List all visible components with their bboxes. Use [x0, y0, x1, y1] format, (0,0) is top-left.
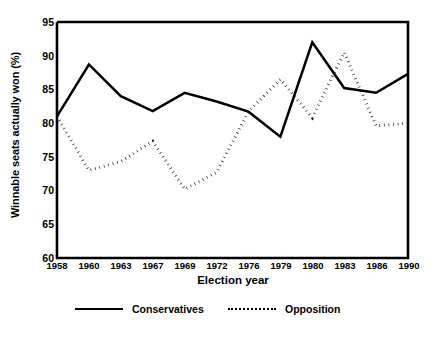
legend-swatch-dotted-line-icon — [228, 303, 276, 315]
legend-swatch-solid-line-icon — [75, 303, 123, 315]
series-line-opposition — [57, 52, 408, 189]
x-tick-label-1960: 1960 — [72, 261, 106, 271]
chart-legend: Conservatives Opposition — [0, 300, 439, 330]
x-tick-label-1986: 1986 — [360, 261, 394, 271]
x-tick-label-1976: 1976 — [232, 261, 266, 271]
x-axis-title: Election year — [57, 274, 409, 286]
plot-area — [0, 0, 439, 338]
legend-label-conservatives: Conservatives — [132, 303, 204, 315]
x-tick-label-1990: 1990 — [392, 261, 426, 271]
x-tick-label-1969: 1969 — [168, 261, 202, 271]
series-line-conservatives — [57, 42, 408, 136]
x-tick-label-1980: 1980 — [296, 261, 330, 271]
legend-item-conservatives: Conservatives — [75, 300, 204, 318]
x-tick-label-1979: 1979 — [264, 261, 298, 271]
legend-item-opposition: Opposition — [228, 300, 340, 318]
axis-frame — [57, 22, 408, 258]
legend-label-opposition: Opposition — [285, 303, 340, 315]
x-tick-label-1958: 1958 — [40, 261, 74, 271]
chart-figure: Winnable seats actually won (%) 95 90 85… — [0, 0, 439, 338]
x-tick-label-1972: 1972 — [200, 261, 234, 271]
x-tick-label-1983: 1983 — [328, 261, 362, 271]
x-tick-label-1967: 1967 — [136, 261, 170, 271]
x-tick-label-1963: 1963 — [104, 261, 138, 271]
